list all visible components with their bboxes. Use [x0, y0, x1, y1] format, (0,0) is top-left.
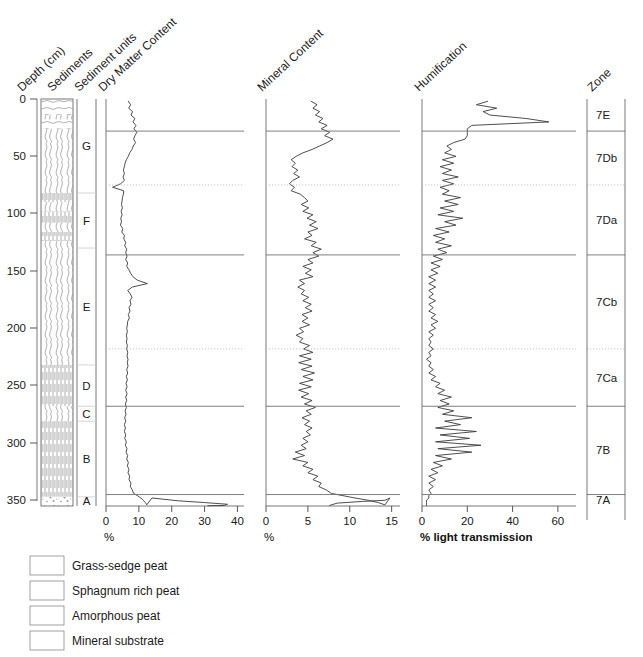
dmc-axis-label: %: [104, 531, 114, 543]
lithology-band-grass-sedge-peat: [42, 115, 73, 120]
depth-tick-200: 200: [7, 322, 26, 334]
diagram-canvas: Depth (cm) Sediments Sediment units Dry …: [0, 0, 643, 657]
legend-label-grass-sedge-peat: Grass-sedge peat: [72, 559, 168, 573]
legend-swatch-grass-sedge-peat: [30, 556, 64, 575]
lithology-band-sphagnum-rich-peat: [42, 99, 73, 115]
depth-ticks: [30, 99, 37, 500]
x-tick-label-0: 0: [419, 515, 425, 527]
depth-tick-0: 0: [20, 93, 26, 105]
x-tick-label-20: 20: [165, 515, 178, 527]
dmc-x-ticks: [106, 506, 237, 512]
sediment-unit-label-E: E: [83, 301, 91, 313]
depth-tick-150: 150: [7, 265, 26, 277]
sediment-unit-label-F: F: [83, 215, 90, 227]
lithology-band-grass-sedge-peat: [42, 202, 73, 211]
mineral-axis-label: %: [264, 531, 274, 543]
zone-label-7B: 7B: [596, 444, 610, 456]
column-headers: Depth (cm) Sediments Sediment units Dry …: [14, 14, 614, 94]
x-tick-label-0: 0: [103, 515, 109, 527]
mineral-x-tick-labels: 051015: [263, 515, 398, 527]
depth-axis: 0 50 100 150 200 250 300 350: [7, 93, 37, 506]
zone-label-7Da: 7Da: [596, 214, 618, 226]
legend-swatch-amorphous-peat: [30, 606, 64, 625]
sediments-column: [41, 99, 73, 506]
zone-label-7A: 7A: [596, 494, 610, 506]
x-tick-label-20: 20: [461, 515, 474, 527]
stratigraphic-diagram: Depth (cm) Sediments Sediment units Dry …: [0, 0, 643, 657]
x-tick-label-40: 40: [231, 515, 244, 527]
x-tick-label-5: 5: [305, 515, 311, 527]
x-tick-label-0: 0: [263, 515, 269, 527]
lithology-band-amorphous-peat: [42, 211, 73, 222]
curve-humification: [427, 101, 549, 505]
lithology-band-amorphous-peat: [42, 365, 73, 406]
depth-tick-100: 100: [7, 207, 26, 219]
zone-label-7Cb: 7Cb: [596, 296, 617, 308]
humification-x-tick-labels: 0204060: [419, 515, 564, 527]
humification-axis-label: % light transmission: [420, 531, 532, 543]
legend-label-mineral-substrate: Mineral substrate: [72, 634, 164, 648]
lithology-band-amorphous-peat: [42, 193, 73, 202]
zone-label-7Db: 7Db: [596, 152, 617, 164]
legend: Grass-sedge peatSphagnum rich peatAmorph…: [30, 556, 180, 650]
sediment-units-column: GFEDCBA: [77, 99, 96, 507]
dmc-x-tick-labels: 010203040: [103, 515, 244, 527]
zone-boundary-lines: [106, 131, 625, 494]
zone-label-7Ca: 7Ca: [596, 372, 618, 384]
legend-label-sphagnum-rich-peat: Sphagnum rich peat: [72, 584, 180, 598]
panel-mineral-content: 051015 %: [263, 99, 400, 543]
header-zone: Zone: [584, 65, 614, 94]
panel-dry-matter-content: 010203040 %: [103, 99, 244, 543]
depth-tick-350: 350: [7, 494, 26, 506]
sediment-unit-label-A: A: [83, 495, 91, 507]
x-tick-label-30: 30: [198, 515, 211, 527]
x-tick-label-10: 10: [132, 515, 145, 527]
header-mineral-content: Mineral Content: [254, 26, 326, 94]
sediment-unit-label-B: B: [83, 453, 91, 465]
lithology-band-grass-sedge-peat: [42, 129, 73, 193]
x-tick-label-15: 15: [385, 515, 398, 527]
sediment-unit-label-C: C: [82, 408, 90, 420]
lithology-band-amorphous-peat: [42, 232, 73, 241]
panel-humification: 0204060 % light transmission: [419, 99, 576, 543]
depth-tick-250: 250: [7, 379, 26, 391]
zone-column: 7E7Db7Da7Cb7Ca7B7A: [587, 99, 625, 520]
lithology-band-sphagnum-rich-peat: [42, 120, 73, 129]
x-tick-label-60: 60: [551, 515, 564, 527]
lithology-band-amorphous-peat: [42, 421, 73, 497]
sediment-unit-label-G: G: [82, 140, 91, 152]
sediment-unit-label-D: D: [82, 380, 90, 392]
legend-label-amorphous-peat: Amorphous peat: [72, 609, 161, 623]
mineral-x-ticks: [266, 506, 392, 512]
humification-x-ticks: [422, 506, 558, 512]
depth-tick-50: 50: [13, 150, 26, 162]
lithology-band-grass-sedge-peat: [42, 223, 73, 232]
lithology-band-mineral-substrate: [42, 497, 73, 506]
header-humification: Humification: [411, 39, 469, 94]
legend-swatch-sphagnum-rich-peat: [30, 581, 64, 600]
lithology-band-grass-sedge-peat: [42, 406, 73, 421]
x-tick-label-40: 40: [506, 515, 519, 527]
curve-mineral-content: [289, 101, 390, 505]
curve-dry-matter-content: [113, 101, 228, 505]
zone-label-7E: 7E: [596, 109, 610, 121]
lithology-band-grass-sedge-peat: [42, 241, 73, 365]
x-tick-label-10: 10: [343, 515, 356, 527]
depth-tick-300: 300: [7, 437, 26, 449]
legend-swatch-mineral-substrate: [30, 631, 64, 650]
depth-tick-labels: 0 50 100 150 200 250 300 350: [7, 93, 26, 506]
